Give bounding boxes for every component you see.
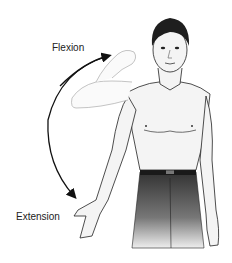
extension-label: Extension [16,211,60,222]
flexed-arm [72,81,133,108]
flexion-label: Flexion [52,42,84,53]
extended-arm [74,96,136,238]
diagram-canvas: Flexion Extension [0,0,232,263]
torso [128,82,210,170]
pants [132,172,204,248]
figure-illustration [0,0,232,263]
